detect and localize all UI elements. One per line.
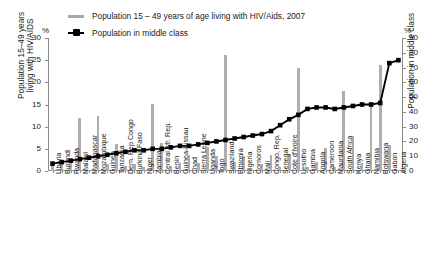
line-marker [332,107,337,112]
left-tick-label: 25 [27,55,41,64]
line-marker [351,104,356,109]
x-axis-label: Gambia [310,149,317,174]
line-marker [378,101,383,106]
right-tick-label: 90 [409,33,418,42]
right-tick [403,68,406,69]
x-axis-label: Chad [192,157,199,174]
line-marker [269,129,274,134]
x-axis-label: Togo [219,159,226,174]
line-marker [232,136,237,141]
bar-swatch-icon [68,9,84,23]
x-axis-label: Central Afr. Rep. [165,122,172,174]
right-tick-label: 10 [409,151,418,160]
x-axis-label: Niger [147,157,154,174]
right-tick [403,127,406,128]
right-tick [403,112,406,113]
x-axis-label: Burundi [65,150,72,174]
right-tick-label: 20 [409,136,418,145]
line-marker [278,123,283,128]
right-tick-label: 0 [409,166,413,175]
x-axis-label: Gabon [392,153,399,174]
x-axis-label: Botswana [383,143,390,174]
x-axis-label: Guinea-Bissau [183,127,190,174]
x-axis-label: Comoros [256,145,263,174]
x-axis-label: Guinea [110,151,117,174]
line-marker [323,105,328,110]
line-marker [241,135,246,140]
x-axis-label: Namibia [374,148,381,174]
x-axis-label: Lesotho [301,149,308,174]
x-axis-label: Uganda [210,149,217,174]
right-axis-title: Population in middle class [407,1,416,121]
line-marker [369,102,374,107]
right-tick [403,82,406,83]
legend-label-hiv: Population 15 – 49 years of age living w… [92,12,305,21]
left-tick-label: 10 [27,122,41,131]
left-tick-label: 15 [27,100,41,109]
legend-label-middle-class: Population in middle class [92,29,188,38]
line-marker [360,102,365,107]
x-axis-label: Burkina Faso [137,132,144,174]
x-axis-label: Benin [174,156,181,174]
x-axis-label: Senegal [283,148,290,174]
x-axis-label: Swaziland [229,142,236,174]
legend-item-hiv: Population 15 – 49 years of age living w… [68,9,305,23]
right-tick-label: 50 [409,92,418,101]
line-marker [287,117,292,122]
left-tick-label: 20 [27,77,41,86]
line-marker [314,105,319,110]
x-axis-label: Sierra Leone [201,133,208,174]
right-tick-label: 60 [409,77,418,86]
right-tick [403,38,406,39]
x-axis-label: Mauritania [338,141,345,174]
x-axis-label: Ghana [365,153,372,174]
x-axis-label: Tanzania [119,146,126,174]
x-axis-label: Cameroon [329,141,336,174]
hiv-middle-class-chart: Population 15 – 49 years of age living w… [0,0,442,259]
line-marker [296,113,301,118]
x-axis-label: Rwanda [74,148,81,174]
line-marker [342,105,347,110]
right-tick-label: 70 [409,63,418,72]
x-axis-label: Ethiopia [238,148,245,174]
right-tick-label: 40 [409,107,418,116]
right-tick-label: 30 [409,122,418,131]
right-tick-label: 80 [409,48,418,57]
x-axis-label: South Africa [347,136,354,174]
right-tick [403,141,406,142]
x-axis-label: Malawi [83,152,90,174]
line-marker [396,58,401,63]
x-axis-labels: LiberiaBurundiRwandaMalawiMadagascarMoza… [48,174,403,258]
x-axis-label: Congo, Rep. [274,134,281,174]
left-tick-label: 5 [27,144,41,153]
line-marker [260,132,265,137]
line-marker [387,61,392,66]
x-axis-label: Liberia [56,153,63,174]
line-marker [251,133,256,138]
right-tick [403,53,406,54]
left-tick [45,171,48,172]
left-tick-label: 30 [27,33,41,42]
x-axis-label: Kenya [356,154,363,174]
x-axis-label: Cote d'Ivoire [292,134,299,174]
x-axis-label: Dem. Rep Congo [128,119,135,174]
x-axis-label: Angola [320,152,327,174]
left-tick-label: 0 [27,166,41,175]
x-axis-label: Algeria [401,152,408,174]
x-axis-label: Madagascar [92,135,99,174]
x-axis-label: Nigeria [247,152,254,174]
right-tick [403,97,406,98]
left-axis-unit: % [42,26,49,35]
line-marker [305,107,310,112]
x-axis-label: Zambia [156,150,163,174]
x-axis-label: Mozambique [101,133,108,174]
x-axis-label: Mali [265,161,272,174]
line-marker [214,139,219,144]
